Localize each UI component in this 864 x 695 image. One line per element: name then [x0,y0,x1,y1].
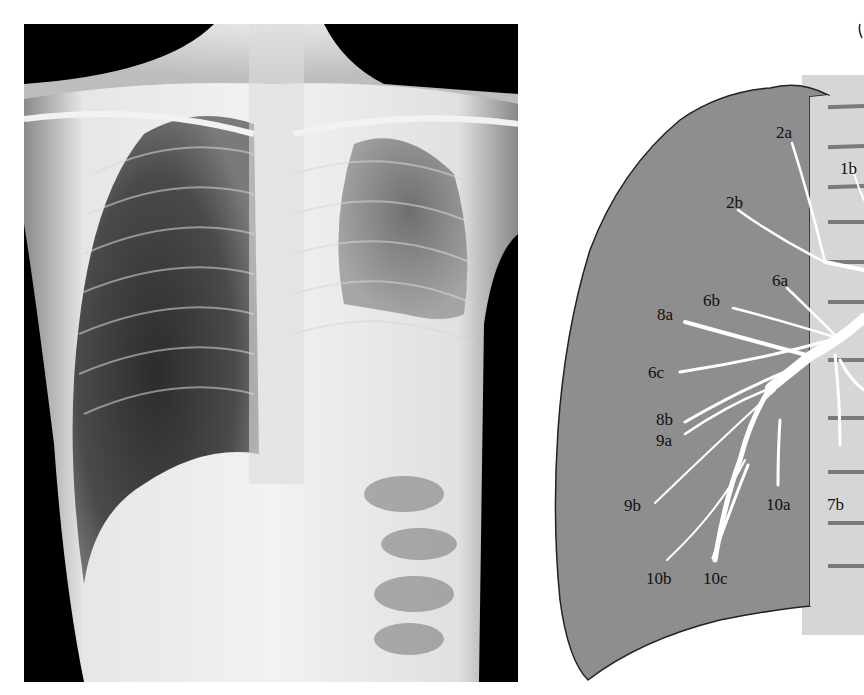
label-10b: 10b [646,569,672,588]
label-10a: 10a [766,495,791,514]
label-2b: 2b [726,193,743,212]
label-9a: 9a [656,431,673,450]
xray-graphic [24,24,518,682]
label-6c: 6c [648,363,665,382]
label-8b: 8b [656,410,673,429]
chest-xray-image [24,24,518,682]
label-2a: 2a [776,123,793,142]
diagram-graphic: 2a 1b 2b 6a 6b 8a 6c 8b 9a 9b 10a 7b 10b… [540,0,864,695]
lung-outline [555,85,828,680]
bronchial-segment-diagram: 2a 1b 2b 6a 6b 8a 6c 8b 9a 9b 10a 7b 10b… [540,0,864,695]
label-10c: 10c [703,569,728,588]
label-6a: 6a [772,271,789,290]
label-6b: 6b [703,291,720,310]
label-7b: 7b [827,495,844,514]
label-9b: 9b [624,496,641,515]
label-1b: 1b [840,159,857,178]
label-8a: 8a [657,305,674,324]
